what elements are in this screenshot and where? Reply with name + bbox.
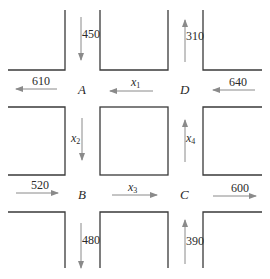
- street-edge-top-middle: [100, 10, 168, 70]
- street-edge-bottom-left: [8, 212, 65, 268]
- center-block: [100, 107, 168, 175]
- street-edge-bottom-middle: [100, 212, 168, 268]
- flow-label-310: 310: [186, 29, 204, 43]
- flow-label-x3: x3: [127, 180, 137, 195]
- street-edge-top-right: [203, 10, 262, 70]
- street-outlines: [8, 10, 262, 268]
- flow-label-450: 450: [82, 27, 100, 41]
- street-edge-middle-right: [203, 107, 262, 175]
- flow-label-480: 480: [82, 233, 100, 247]
- street-edge-top-left: [8, 10, 65, 70]
- flow-label-610: 610: [32, 74, 50, 88]
- street-edge-middle-left: [8, 107, 65, 175]
- flow-label-520: 520: [31, 178, 49, 192]
- internal-flow-arrows: x1 x2 x3 x4: [70, 75, 195, 195]
- node-label-A: A: [77, 82, 86, 97]
- flow-label-390: 390: [186, 234, 204, 248]
- node-label-C: C: [180, 187, 189, 202]
- node-label-D: D: [179, 82, 190, 97]
- flow-label-x1: x1: [130, 75, 140, 90]
- node-label-B: B: [78, 187, 86, 202]
- traffic-network-diagram: 450 610 310 640 520 480 600 390 x1 x2 x3…: [0, 0, 270, 279]
- flow-label-x2: x2: [70, 131, 80, 146]
- external-flow-arrows: 450 610 310 640 520 480 600 390: [16, 17, 256, 268]
- intersection-labels: A D B C: [77, 82, 190, 202]
- flow-label-640: 640: [229, 75, 247, 89]
- flow-label-x4: x4: [185, 131, 195, 146]
- street-edge-bottom-right: [203, 212, 262, 268]
- flow-label-600: 600: [231, 181, 249, 195]
